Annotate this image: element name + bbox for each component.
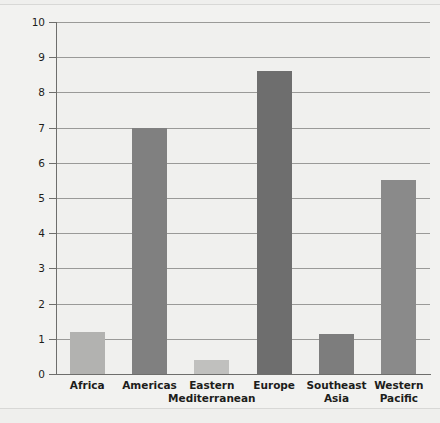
x-tick-label: WesternPacific: [354, 379, 440, 404]
plot-area: [56, 22, 430, 374]
bar: [194, 360, 229, 374]
gridline: [56, 163, 430, 164]
y-tick-mark: [49, 163, 56, 164]
bar: [70, 332, 105, 374]
bar: [132, 128, 167, 374]
gridline: [56, 92, 430, 93]
x-tick-label-line: Pacific: [354, 392, 440, 405]
x-axis-line: [56, 374, 431, 375]
y-tick-label: 3: [0, 262, 45, 274]
y-tick-label: 4: [0, 227, 45, 239]
gridline: [56, 128, 430, 129]
y-tick-label: 2: [0, 298, 45, 310]
y-tick-label: 9: [0, 51, 45, 63]
gridline: [56, 198, 430, 199]
y-tick-mark: [49, 128, 56, 129]
y-tick-mark: [49, 233, 56, 234]
bar: [381, 180, 416, 374]
gridline: [56, 22, 430, 23]
y-tick-mark: [49, 339, 56, 340]
y-tick-mark: [49, 22, 56, 23]
bar: [319, 334, 354, 374]
gridline: [56, 339, 430, 340]
gridline: [56, 268, 430, 269]
y-tick-mark: [49, 374, 56, 375]
y-tick-mark: [49, 304, 56, 305]
y-tick-mark: [49, 198, 56, 199]
y-tick-label: 0: [0, 368, 45, 380]
y-tick-label: 10: [0, 16, 45, 28]
bar: [257, 71, 292, 374]
y-tick-label: 8: [0, 86, 45, 98]
y-tick-label: 6: [0, 157, 45, 169]
chart-figure: Consumption in liters 109876543210 Afric…: [0, 0, 440, 423]
y-tick-mark: [49, 92, 56, 93]
x-tick-label-line: Mediterranean: [167, 392, 257, 405]
y-tick-label: 5: [0, 192, 45, 204]
x-tick-label-line: Western: [354, 379, 440, 392]
y-tick-label: 1: [0, 333, 45, 345]
y-axis-line: [56, 22, 57, 375]
page-band-bottom: [0, 409, 440, 423]
gridline: [56, 233, 430, 234]
gridline: [56, 57, 430, 58]
y-tick-mark: [49, 268, 56, 269]
gridline: [56, 304, 430, 305]
y-tick-label: 7: [0, 122, 45, 134]
y-tick-mark: [49, 57, 56, 58]
bottom-rule: [0, 408, 440, 409]
top-rule: [0, 4, 440, 5]
